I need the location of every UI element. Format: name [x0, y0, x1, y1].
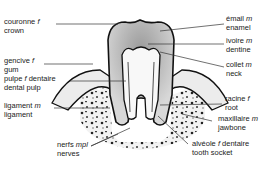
label-dental-pulp: pulpe f dentaire dental pulp — [4, 75, 56, 92]
label-crown: couronne f crown — [4, 18, 39, 35]
label-nerves: nerfs mpl nerves — [57, 141, 88, 158]
label-root: racine f root — [225, 95, 250, 112]
label-ligament: ligament m ligament — [4, 102, 41, 119]
label-enamel: émail m enamel — [226, 15, 252, 32]
label-dentine: ivoire m dentine — [226, 37, 252, 54]
label-gum: gencive f gum — [4, 57, 34, 74]
label-jawbone: maxillaire m jawbone — [218, 115, 258, 132]
label-neck: collet m neck — [226, 61, 252, 78]
label-tooth-socket: alvéole f dentaire tooth socket — [192, 140, 249, 157]
pulp-shape — [122, 47, 160, 119]
